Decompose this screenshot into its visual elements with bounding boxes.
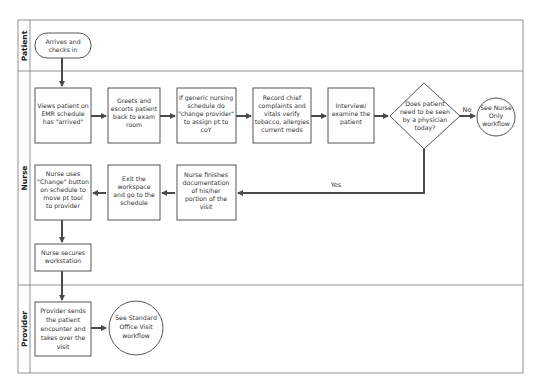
edge-label-no: No xyxy=(463,106,472,114)
svg-text:Arrives andchecks in: Arrives andchecks in xyxy=(45,38,80,53)
lane-label-patient: Patient xyxy=(20,30,29,61)
node-exit-workspace[interactable]: Exit theworkspaceand go to theschedule xyxy=(108,165,160,220)
node-secures-workstation[interactable]: Nurse securesworkstation xyxy=(35,244,91,271)
swimlane-frame xyxy=(18,20,523,373)
edge-label-yes: Yes xyxy=(330,181,342,189)
svg-text:Views patient onEMR scheduleha: Views patient onEMR schedulehas "arrived… xyxy=(37,102,89,125)
node-interview[interactable]: Interview/examine thepatient xyxy=(328,88,374,143)
lane-label-provider: Provider xyxy=(20,311,29,347)
node-record-vitals[interactable]: Record chiefcomplaints andvitals verifyt… xyxy=(253,88,311,143)
svg-text:Nurse securesworkstation: Nurse securesworkstation xyxy=(41,249,85,264)
node-change-button[interactable]: Nurse uses"Change" buttonon schedule tom… xyxy=(35,165,91,220)
swimlane-diagram: Patient Nurse Provider No Yes Arrives an… xyxy=(0,0,537,385)
node-provider-sends[interactable]: Provider sendsthe patientencounter andta… xyxy=(35,302,91,356)
node-generic-schedule[interactable]: If generic nursingschedule do"change pro… xyxy=(177,88,236,143)
node-views-schedule[interactable]: Views patient onEMR schedulehas "arrived… xyxy=(35,88,91,143)
lane-label-nurse: Nurse xyxy=(20,166,29,191)
node-arrives[interactable]: Arrives andchecks in xyxy=(35,33,91,58)
node-nurse-only-workflow[interactable]: See NurseOnlyworkflow xyxy=(477,98,515,136)
node-greets[interactable]: Greets andescorts patientback to examroo… xyxy=(108,88,160,143)
node-nurse-finishes[interactable]: Nurse finishesdocumentationof his/herpor… xyxy=(177,165,236,220)
node-standard-office-visit[interactable]: See StandardOffice Visitworkflow xyxy=(109,301,163,355)
node-decision[interactable]: Does patientneed to be seenby a physicia… xyxy=(390,83,460,149)
